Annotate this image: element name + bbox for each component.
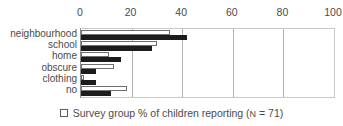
legend-swatch-icon [60, 109, 68, 117]
chart-legend: Survey group % of children reporting (N … [0, 103, 343, 123]
bar-chart: 020406080100 neighbourhoodschoolhomeobsc… [0, 0, 343, 126]
gridline-60 [233, 29, 234, 97]
x-tick-label-20: 20 [125, 6, 137, 19]
x-axis-tick-labels: 020406080100 [0, 6, 343, 22]
x-tick-label-0: 0 [77, 6, 83, 19]
bar-home-series2 [81, 57, 121, 62]
category-label-clothing: clothing [43, 74, 77, 84]
gridline-80 [283, 29, 284, 97]
legend-item: Survey group % of children reporting (N … [60, 106, 284, 121]
y-axis-category-labels: neighbourhoodschoolhomeobscureclothingno [0, 28, 79, 96]
category-label-no: no [66, 85, 77, 95]
x-tick-label-80: 80 [277, 6, 289, 19]
x-tick-label-60: 60 [226, 6, 238, 19]
category-label-neighbourhood: neighbourhood [10, 29, 77, 39]
bar-neighbourhood-series2 [81, 35, 187, 40]
x-tick-label-40: 40 [175, 6, 187, 19]
bar-obscure-series2 [81, 69, 96, 74]
category-label-school: school [48, 40, 77, 50]
bar-school-series2 [81, 46, 152, 51]
x-tick-label-100: 100 [324, 6, 342, 19]
bar-clothing-series2 [81, 80, 96, 85]
plot-area [80, 28, 335, 98]
legend-label: Survey group % of children reporting (N … [73, 106, 284, 121]
bar-no-series2 [81, 91, 111, 96]
category-label-home: home [52, 51, 77, 61]
legend-n-symbol: N [250, 109, 257, 119]
category-label-obscure: obscure [41, 63, 77, 73]
